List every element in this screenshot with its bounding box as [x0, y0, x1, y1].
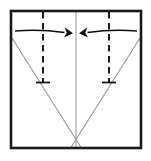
- origami-fold-diagram: Square sheet with vertical center crease…: [0, 0, 151, 161]
- fold-diagram-canvas: [0, 0, 151, 161]
